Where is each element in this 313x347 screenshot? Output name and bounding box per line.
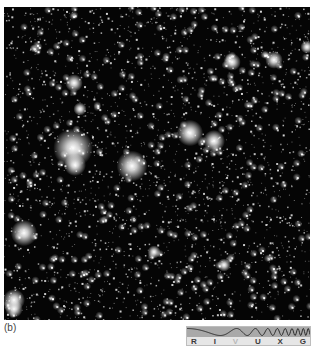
- starfield-photo: [4, 7, 310, 320]
- spectrum-indicator: RIVUXG: [186, 326, 311, 346]
- band-label-x: X: [278, 337, 283, 346]
- band-label-r: R: [191, 337, 197, 346]
- panel-label: (b): [4, 322, 16, 333]
- wavelength-wave-icon: [187, 327, 310, 337]
- starfield-canvas: [4, 7, 310, 320]
- spectrum-band-labels: RIVUXG: [187, 337, 310, 346]
- band-label-v: V: [233, 337, 238, 346]
- band-label-u: U: [255, 337, 261, 346]
- band-label-g: G: [300, 337, 306, 346]
- band-label-i: I: [214, 337, 216, 346]
